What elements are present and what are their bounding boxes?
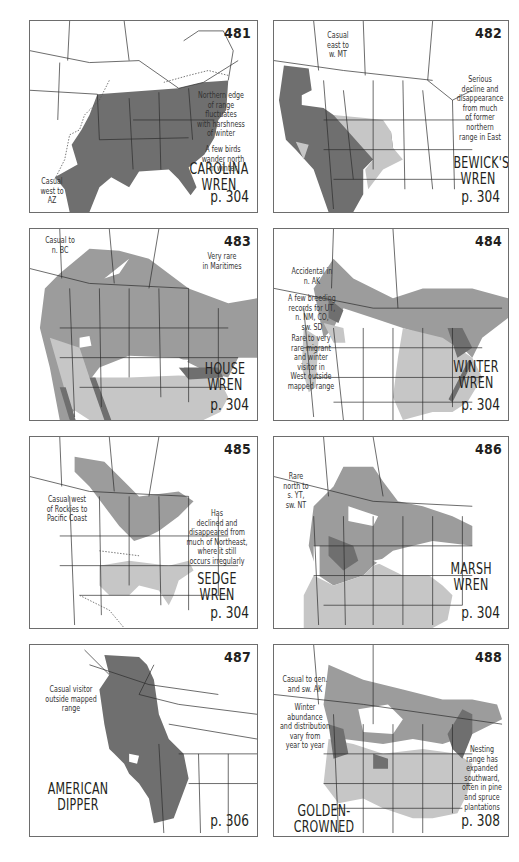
species-name: SEDGE WREN [192, 571, 241, 603]
page-reference: p. 304 [210, 188, 249, 206]
map-number: 482 [475, 25, 502, 41]
page-reference: p. 304 [461, 604, 500, 622]
map-note: Accidental in n. AK [286, 267, 338, 286]
map-panel-481-carolina-wren: 481 Northern edge of range fluctuates wi… [29, 20, 258, 213]
map-number: 481 [224, 25, 251, 41]
map-number: 483 [224, 233, 251, 249]
map-note: Casual west to AZ [37, 177, 68, 206]
map-panel-485-sedge-wren: 485 Casual west of Rockies to Pacific Co… [29, 436, 258, 629]
map-panel-482-bewicks-wren: 482 Casual east to w. MT Serious decline… [273, 20, 509, 213]
page-reference: p. 304 [461, 396, 500, 414]
map-note: Has declined and disappeared from much o… [183, 509, 252, 567]
page-reference: p. 304 [210, 604, 249, 622]
map-note: A few breeding records for UT, n. NM, CO… [284, 294, 339, 332]
map-note: Nesting range has expanded southward, of… [460, 745, 505, 812]
map-panel-488-golden-crowned-kinglet: 488 Casual to cen. and sw. AK Winter abu… [273, 644, 509, 837]
species-name: MARSH WREN [451, 561, 492, 593]
map-note: Rare north to s. YT, sw. NT [279, 472, 313, 510]
range-map-486 [274, 437, 508, 628]
page-reference: p. 304 [461, 188, 500, 206]
map-number: 485 [224, 441, 251, 457]
map-panel-483-house-wren: 483 Casual to n. BC Very rare in Maritim… [29, 228, 258, 421]
species-name: WINTER WREN [451, 359, 500, 391]
page-reference: p. 304 [210, 396, 249, 414]
map-panel-487-american-dipper: 487 Casual visitor outside mapped range … [29, 644, 258, 837]
species-name: GOLDEN-CROWNED KINGLET [283, 803, 365, 837]
map-note: Casual east to w. MT [321, 31, 355, 60]
species-name: HOUSE WREN [200, 361, 249, 393]
map-panel-484-winter-wren: 484 Accidental in n. AK A few breeding r… [273, 228, 509, 421]
map-note: Casual visitor outside mapped range [44, 685, 97, 714]
map-panel-486-marsh-wren: 486 Rare north to s. YT, sw. NT MARSH WR… [273, 436, 509, 629]
map-note: Casual west of Rockies to Pacific Coast [37, 495, 97, 524]
map-number: 486 [475, 441, 502, 457]
map-note: Rare to very rare migrant and winter vis… [284, 334, 337, 392]
map-number: 487 [224, 649, 251, 665]
map-note: Serious decline and disappearance from m… [456, 75, 504, 142]
map-number: 484 [475, 233, 502, 249]
map-note: Casual to cen. and sw. AK [278, 675, 331, 694]
species-name: BEWICK'S WREN [453, 155, 502, 187]
map-number: 488 [475, 649, 502, 665]
species-name: AMERICAN DIPPER [45, 781, 111, 813]
map-note: Casual to n. BC [39, 236, 80, 255]
map-note: Very rare in Maritimes [197, 252, 247, 271]
page-reference: p. 308 [461, 812, 500, 830]
page-reference: p. 306 [210, 812, 249, 830]
map-note: Winter abundance and distribution vary f… [278, 703, 331, 751]
map-note: Northern edge of range fluctuates with h… [192, 91, 250, 139]
